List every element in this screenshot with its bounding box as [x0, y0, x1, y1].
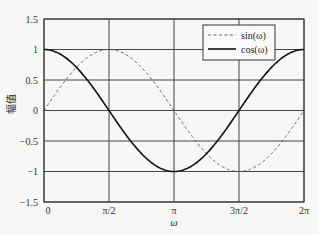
x-axis-label: ω [170, 217, 177, 228]
x-tick-label: π/2 [103, 205, 116, 216]
x-axis-ticks: 0π/2π3π/22π [46, 205, 310, 216]
x-tick-label: 3π/2 [230, 205, 248, 216]
y-tick-label: 1.5 [26, 14, 39, 25]
x-tick-label: 2π [299, 205, 309, 216]
legend-label-sin: sin(ω) [241, 30, 266, 42]
y-axis-label: 幅值 [5, 94, 17, 114]
x-tick-label: 0 [46, 205, 51, 216]
y-tick-label: −0.5 [20, 136, 38, 147]
x-tick-label: π [171, 205, 176, 216]
y-tick-label: 0 [33, 105, 38, 116]
chart: 1.510.50−0.5−1−1.5 0π/2π3π/22π 幅值 ω sin(… [0, 0, 319, 235]
y-tick-label: 1 [33, 44, 38, 55]
y-tick-label: 0.5 [26, 75, 39, 86]
y-axis-ticks: 1.510.50−0.5−1−1.5 [20, 14, 38, 208]
y-tick-label: −1 [27, 166, 38, 177]
legend-label-cos: cos(ω) [241, 44, 268, 56]
y-tick-label: −1.5 [20, 197, 38, 208]
legend: sin(ω)cos(ω) [203, 25, 275, 60]
